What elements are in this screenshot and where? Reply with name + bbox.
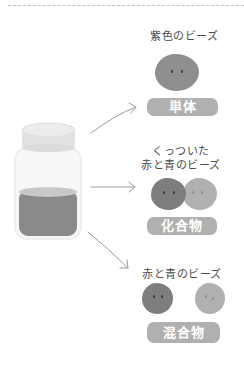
- bead-eye: [205, 295, 207, 298]
- mixture-caption: 赤と青のビーズ: [140, 265, 224, 281]
- compound-label: 化合物: [147, 217, 217, 235]
- bead-eye: [173, 191, 175, 194]
- blue-bead-bonded: [183, 178, 217, 210]
- element-caption: 紫色のビーズ: [150, 27, 206, 43]
- bead-eye: [171, 70, 173, 73]
- element-label: 単体: [147, 98, 218, 116]
- red-bead-bonded: [151, 178, 186, 210]
- mixture-label: 混合物: [147, 322, 220, 343]
- bead-eye: [201, 191, 203, 194]
- blue-bead-separate: [195, 283, 225, 314]
- bead-eye: [181, 70, 183, 73]
- bead-eye: [161, 295, 163, 298]
- jar-icon: [15, 123, 81, 239]
- red-bead-separate: [142, 283, 173, 314]
- purple-bead: [155, 54, 199, 91]
- arrow-to-mixture: [88, 232, 128, 268]
- bead-eye: [212, 297, 214, 300]
- arrows: [88, 103, 136, 268]
- bead-eye: [153, 295, 155, 298]
- bead-eye: [192, 191, 194, 194]
- arrow-to-element: [91, 107, 136, 133]
- bead-eye: [163, 191, 165, 194]
- compound-caption-line2: 赤と青のビーズ: [140, 156, 222, 172]
